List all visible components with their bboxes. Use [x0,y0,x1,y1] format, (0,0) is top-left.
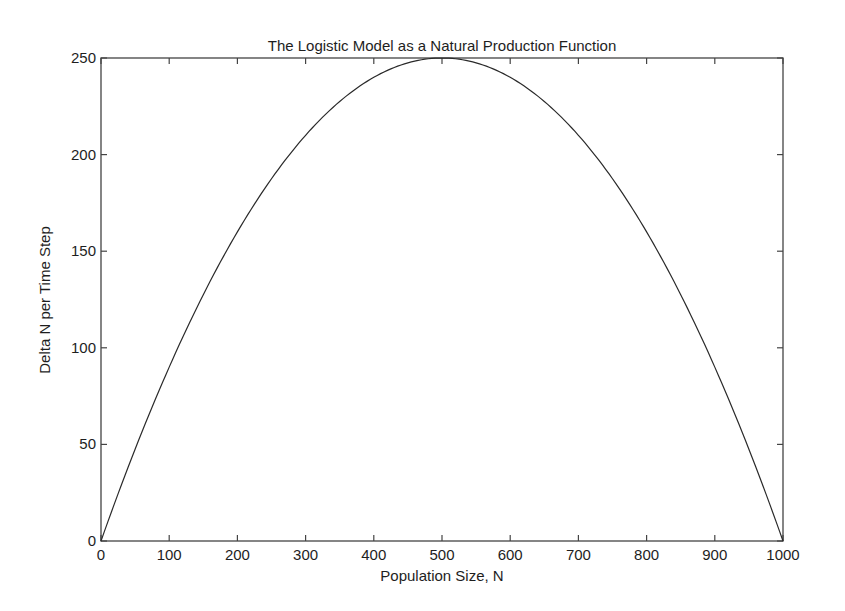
x-tick-label: 700 [566,546,591,563]
x-tick-label: 900 [702,546,727,563]
x-tick-label: 1000 [766,546,799,563]
logistic-production-curve [101,58,783,541]
y-tick-label: 200 [71,146,96,163]
chart-title: The Logistic Model as a Natural Producti… [268,37,617,54]
y-axis-label: Delta N per Time Step [36,226,53,374]
y-tick-label: 50 [79,435,96,452]
x-tick-label: 400 [361,546,386,563]
x-tick-label: 800 [634,546,659,563]
y-tick-label: 100 [71,339,96,356]
x-tick-label: 0 [97,546,105,563]
chart-figure: The Logistic Model as a Natural Producti… [0,0,845,611]
x-tick-label: 300 [293,546,318,563]
y-tick-label: 250 [71,49,96,66]
x-tick-label: 200 [225,546,250,563]
y-tick-label: 150 [71,242,96,259]
y-tick-label: 0 [88,532,96,549]
plot-area-frame [101,58,783,541]
x-tick-label: 100 [157,546,182,563]
y-axis-ticks: 050100150200250 [71,49,783,549]
x-tick-label: 600 [498,546,523,563]
x-axis-ticks: 01002003004005006007008009001000 [97,58,800,563]
x-tick-label: 500 [429,546,454,563]
x-axis-label: Population Size, N [380,567,503,584]
